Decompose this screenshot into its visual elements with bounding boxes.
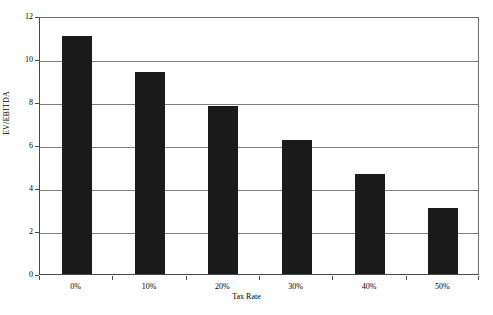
y-tick-mark [35, 232, 39, 233]
x-tick-label: 40% [339, 282, 399, 291]
x-tick-mark [186, 276, 187, 280]
x-tick-label: 10% [119, 282, 179, 291]
gridline [40, 104, 478, 105]
x-tick-mark [112, 276, 113, 280]
y-tick-mark [35, 60, 39, 61]
bar [282, 140, 312, 274]
y-tick-label: 8 [3, 99, 33, 107]
y-tick-mark [35, 189, 39, 190]
bar [355, 174, 385, 274]
x-axis-title: Tax Rate [0, 292, 493, 301]
gridline [40, 61, 478, 62]
gridline [40, 233, 478, 234]
y-tick-label: 0 [3, 271, 33, 279]
bar [428, 208, 458, 274]
x-tick-mark [478, 276, 479, 280]
x-tick-mark [259, 276, 260, 280]
y-tick-label: 2 [3, 228, 33, 236]
bar [62, 36, 92, 274]
gridline [40, 190, 478, 191]
x-tick-label: 20% [192, 282, 252, 291]
x-tick-mark [39, 276, 40, 280]
y-tick-mark [35, 17, 39, 18]
bar-chart: EV/EBITDA 0246810120%10%20%30%40%50% Tax… [0, 0, 493, 315]
gridline [40, 147, 478, 148]
y-tick-mark [35, 146, 39, 147]
y-tick-label: 4 [3, 185, 33, 193]
y-tick-label: 6 [3, 142, 33, 150]
x-tick-label: 0% [46, 282, 106, 291]
y-tick-label: 12 [3, 13, 33, 21]
x-tick-mark [332, 276, 333, 280]
x-tick-mark [406, 276, 407, 280]
bar [135, 72, 165, 274]
x-tick-label: 30% [266, 282, 326, 291]
y-tick-mark [35, 103, 39, 104]
x-tick-label: 50% [412, 282, 472, 291]
bar [208, 106, 238, 274]
y-tick-label: 10 [3, 56, 33, 64]
plot-area [39, 17, 479, 275]
